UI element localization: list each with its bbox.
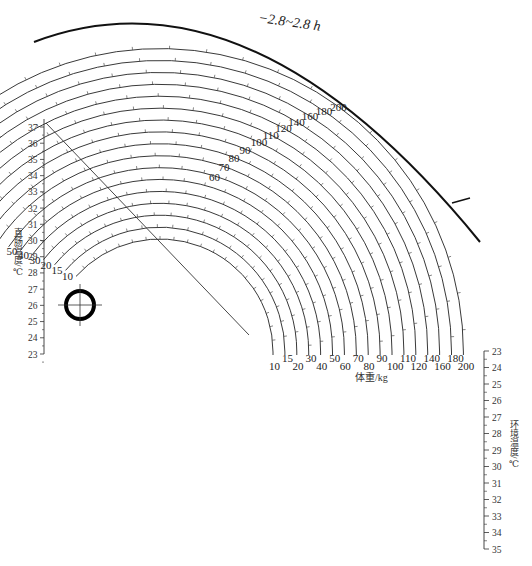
right-tick-label: 24 (492, 363, 502, 373)
top-arc-label: −2.8~2.8 h (258, 10, 322, 34)
weight-arc-60 (9, 168, 345, 355)
left-tick-label: 30 (28, 236, 38, 246)
weight-arc-15 (66, 227, 285, 355)
weight-label: 40 (316, 360, 328, 372)
right-tick-label: 26 (492, 396, 502, 406)
crosshair-circle-icon (58, 284, 102, 326)
weight-label: 10 (269, 360, 281, 372)
right-tick-label: 31 (492, 479, 502, 489)
weight-label: 200 (458, 360, 475, 372)
ambient-temp-axis: 23242526272829303132333435 (484, 347, 502, 555)
weight-arcs: 1015203040506070809010011012014016018020… (0, 46, 466, 355)
arc-label: 10 (62, 270, 74, 282)
range-marker (452, 198, 470, 203)
weight-label: 20 (293, 360, 305, 372)
left-tick-label: 27 (28, 285, 38, 295)
right-tick-label: 27 (492, 413, 502, 423)
right-tick-label: 30 (492, 462, 502, 472)
arc-label: 80 (229, 152, 241, 164)
left-tick-label: 24 (28, 333, 38, 343)
left-tick-label: 31 (28, 220, 38, 230)
weight-label: 100 (387, 360, 404, 372)
nomogram: 1015203040506070809010011012014016018020… (0, 0, 532, 566)
left-tick-label: 29 (28, 252, 38, 262)
right-tick-label: 23 (492, 347, 502, 357)
weight-arc-20 (55, 215, 297, 355)
left-tick-label: 36 (28, 139, 38, 149)
weight-arc-100 (0, 120, 392, 355)
left-tick-label: 23 (28, 350, 38, 360)
arc-label: 200 (330, 101, 347, 113)
left-tick-label: 25 (28, 317, 38, 327)
arc-label: 90 (239, 144, 251, 156)
right-tick-label: 34 (492, 528, 502, 538)
left-tick-label: 26 (28, 301, 38, 311)
left-tick-label: 37 (28, 123, 38, 133)
right-tick-label: 28 (492, 429, 502, 439)
right-axis-label: 环境温度/℃ (508, 420, 521, 469)
weight-arc-50 (20, 179, 332, 355)
weight-axis-title: 体重/kg (355, 371, 388, 383)
weight-arc-10 (76, 239, 273, 355)
left-tick-label: 32 (28, 204, 38, 214)
rectal-temp-axis: 373635343332313029282726252423 (28, 119, 44, 362)
right-tick-label: 32 (492, 495, 502, 505)
arc-label: 15 (52, 264, 64, 276)
left-tick-label: 28 (28, 268, 38, 278)
right-tick-label: 35 (492, 545, 502, 555)
weight-label: 80 (363, 360, 375, 372)
weight-arc-30 (44, 203, 309, 355)
weight-axis-labels: 1530507090110140180102040608010012016020… (269, 352, 475, 372)
left-axis-label: 直肠温度/℃ (12, 228, 25, 277)
right-tick-label: 33 (492, 512, 502, 522)
left-tick-label: 33 (28, 187, 38, 197)
weight-label: 160 (434, 360, 451, 372)
weight-label: 60 (340, 360, 352, 372)
right-tick-label: 29 (492, 446, 502, 456)
left-tick-label: 34 (28, 171, 38, 181)
weight-arc-140 (0, 84, 428, 355)
right-tick-label: 25 (492, 380, 502, 390)
weight-label: 120 (411, 360, 428, 372)
left-tick-label: 35 (28, 155, 38, 165)
